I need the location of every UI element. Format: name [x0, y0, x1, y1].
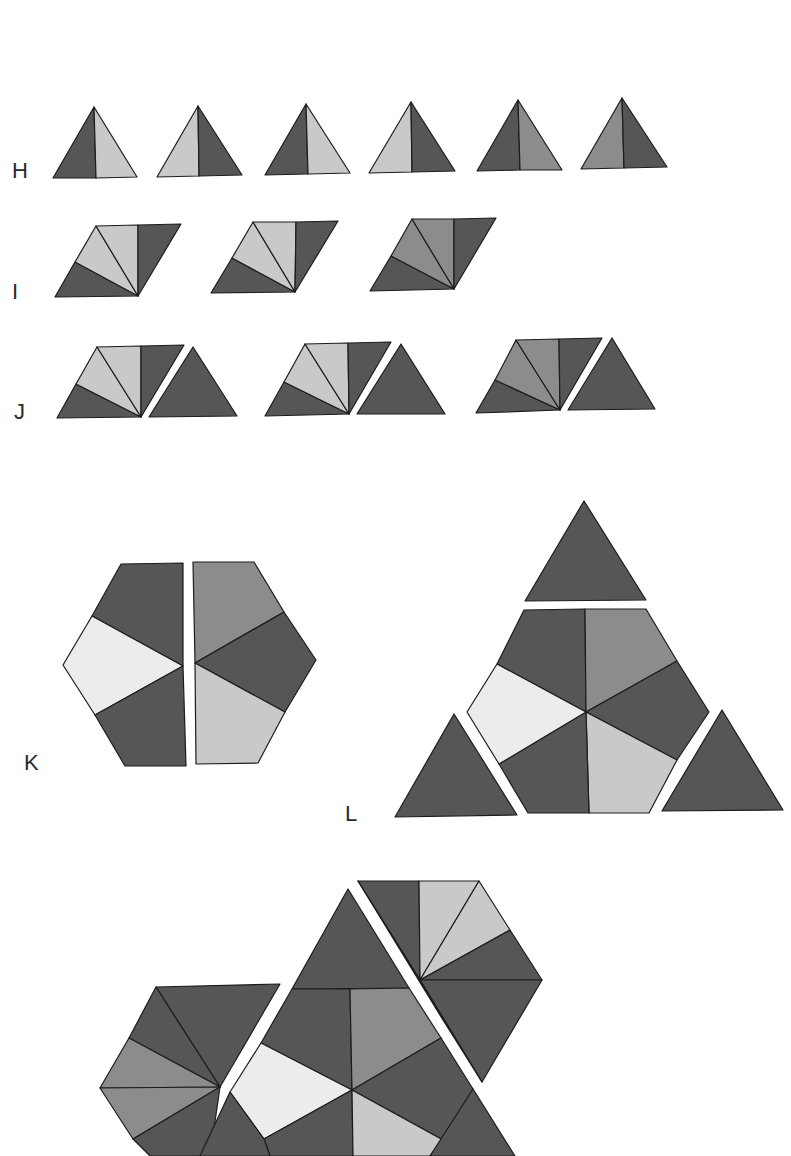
puzzle-piece — [476, 338, 655, 413]
puzzle-piece — [369, 102, 455, 173]
row-j-trapezoids — [57, 338, 655, 418]
puzzle-piece — [581, 98, 667, 169]
puzzle-piece — [193, 562, 316, 764]
row-h-triangles — [53, 98, 667, 178]
shaded-region-dark — [265, 104, 308, 175]
row-label-i: I — [12, 281, 18, 303]
puzzle-piece — [477, 100, 562, 171]
row-l-triangle-assembly — [395, 501, 783, 817]
row-m-composite-assembly — [100, 881, 542, 1156]
row-label-l: L — [345, 803, 357, 825]
shapes-canvas — [0, 0, 791, 1156]
row-k-split-hexagon — [63, 562, 316, 766]
puzzle-piece — [467, 609, 709, 813]
shaded-region-light — [306, 104, 350, 174]
shaded-region-mid — [518, 100, 562, 170]
puzzle-piece — [525, 501, 646, 601]
puzzle-piece — [63, 563, 186, 766]
puzzle-piece — [57, 345, 237, 418]
shaded-region-light — [157, 106, 199, 177]
row-label-j: J — [14, 401, 25, 423]
puzzle-piece — [53, 107, 137, 178]
puzzle-piece — [370, 218, 496, 291]
shaded-region-dark — [411, 102, 455, 172]
shaded-region-dark — [477, 100, 520, 171]
shaded-region-dark — [198, 106, 242, 176]
shaded-region-dark — [53, 107, 96, 178]
shaded-region-dark — [295, 221, 338, 292]
row-label-k: K — [24, 752, 39, 774]
shaded-region-dark — [525, 501, 646, 601]
puzzle-piece — [211, 221, 338, 293]
shaded-region-light — [94, 107, 137, 178]
puzzle-diagram: H I J K L — [0, 0, 791, 1156]
shaded-region-dark — [454, 218, 496, 289]
row-i-rhombuses — [55, 218, 496, 297]
shaded-region-light — [369, 102, 412, 173]
puzzle-piece — [55, 224, 181, 297]
puzzle-piece — [157, 106, 242, 177]
row-label-h: H — [12, 160, 28, 182]
puzzle-piece — [265, 104, 350, 175]
shaded-region-dark — [622, 98, 667, 168]
puzzle-piece — [265, 342, 445, 416]
shaded-region-dark — [138, 224, 181, 296]
shaded-region-mid — [581, 98, 624, 169]
